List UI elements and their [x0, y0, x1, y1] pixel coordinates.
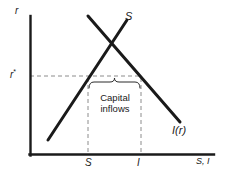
diagram-canvas	[0, 0, 227, 178]
investment-curve-label: I(r)	[172, 125, 186, 136]
saving-curve-label: S	[125, 11, 132, 22]
capital-inflows-brace	[89, 78, 140, 88]
x-tick-label-s: S	[85, 158, 92, 168]
x-axis-label: S, I	[196, 157, 210, 166]
y-axis-label: r	[15, 6, 18, 16]
r-star-label: r*	[10, 68, 16, 80]
capital-inflows-label: Capital inflows	[92, 92, 138, 115]
x-tick-label-i: I	[137, 158, 140, 168]
r-star-asterisk: *	[13, 68, 16, 75]
capital-inflows-diagram: r r* S I(r) S I S, I Capital inflows	[0, 0, 227, 178]
